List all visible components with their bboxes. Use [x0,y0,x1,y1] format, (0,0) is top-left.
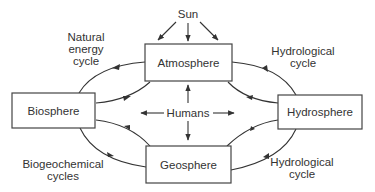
biosphere-label: Biosphere [28,105,80,117]
curve-geosphere-to-biosphere [96,120,150,146]
svg-text:cycle: cycle [289,168,315,180]
svg-text:cycles: cycles [47,170,79,182]
cycle-connectors [0,0,296,170]
sun-label: Sun [178,8,198,20]
node-atmosphere: Atmosphere [145,44,232,81]
cycle-label-bottom-left: Biogeochemical cycles [22,158,103,182]
svg-text:Biogeochemical: Biogeochemical [22,158,103,170]
hydrosphere-label: Hydrosphere [287,106,353,118]
node-biosphere: Biosphere [12,93,95,128]
cycle-label-bottom-right: Hydrological cycle [270,156,333,180]
humans-label: Humans [167,107,210,119]
curve-geosphere-to-hydrosphere [227,120,278,146]
svg-text:Hydrological: Hydrological [271,45,334,57]
node-hydrosphere: Hydrosphere [278,95,362,129]
geosphere-label: Geosphere [160,159,217,171]
sun-arrow-right [200,22,218,40]
atmosphere-label: Atmosphere [157,57,219,69]
cycle-label-top-left: Natural energy cycle [67,31,104,67]
sun-arrow-left [158,22,176,40]
svg-text:cycle: cycle [73,55,99,67]
cycle-label-top-right: Hydrological cycle [271,45,334,69]
curve-biosphere-to-atmosphere [96,82,150,103]
svg-text:Natural: Natural [67,31,104,43]
earth-systems-diagram: Sun Human [0,0,375,192]
svg-text:energy: energy [68,43,103,55]
svg-text:Hydrological: Hydrological [270,156,333,168]
sun-arrows [158,22,218,41]
curve-hydrosphere-to-atmosphere [228,82,278,103]
svg-text:cycle: cycle [290,57,316,69]
node-geosphere: Geosphere [146,146,231,183]
